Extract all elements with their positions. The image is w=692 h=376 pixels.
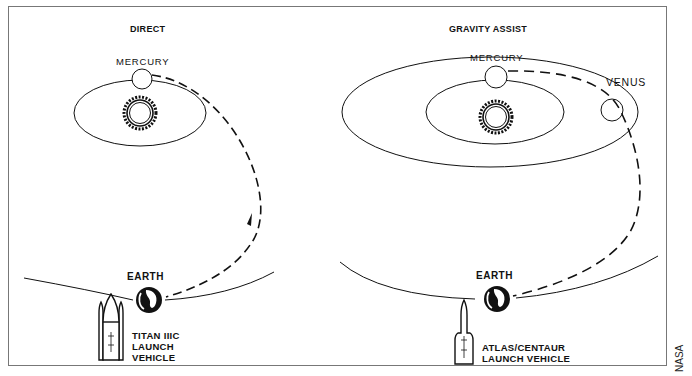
vehicle-line: TITAN IIIC: [132, 330, 180, 341]
earth-orbit-right: [516, 256, 658, 298]
sun-icon: [480, 101, 512, 133]
earth-orbit: [340, 262, 475, 299]
direct-vehicle-label: TITAN IIIC LAUNCH VEHICLE: [132, 330, 180, 363]
gravity-assist-mercury-label: MERCURY: [470, 52, 523, 63]
gravity-assist-vehicle-label: ATLAS/CENTAUR LAUNCH VEHICLE: [482, 342, 570, 364]
credit-label: NASA: [674, 345, 685, 372]
earth-orbit: [24, 278, 133, 300]
gravity-assist-panel: [340, 57, 658, 364]
mercury-planet: [485, 66, 507, 88]
vehicle-line: LAUNCH: [132, 341, 180, 352]
globe-icon: [136, 287, 162, 313]
direct-earth-label: EARTH: [127, 271, 164, 282]
rocket-icon: [455, 300, 473, 364]
direct-trajectory: [152, 75, 261, 297]
vehicle-line: ATLAS/CENTAUR: [482, 342, 570, 353]
earth-orbit-right: [165, 272, 274, 300]
venus-label: VENUS: [606, 76, 646, 88]
direct-title: DIRECT: [130, 24, 165, 34]
direct-panel: [24, 69, 274, 360]
rocket-icon: [99, 294, 123, 360]
direct-mercury-label: MERCURY: [116, 56, 169, 67]
globe-icon: [484, 286, 510, 312]
mercury-planet: [132, 69, 152, 89]
sun-icon: [124, 97, 156, 129]
vehicle-line: LAUNCH VEHICLE: [482, 353, 570, 364]
vehicle-line: VEHICLE: [132, 352, 180, 363]
venus-planet: [601, 99, 623, 121]
gravity-assist-title: GRAVITY ASSIST: [449, 24, 527, 34]
trajectory-diagram: [0, 0, 692, 376]
trajectory-arrow: [247, 213, 252, 226]
gravity-assist-earth-label: EARTH: [476, 270, 513, 281]
